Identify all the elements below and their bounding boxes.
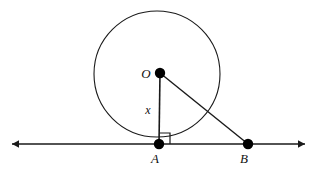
- point-label-o: O: [141, 66, 151, 81]
- point-a: [154, 139, 164, 149]
- point-o: [155, 68, 165, 78]
- point-label-a: A: [150, 151, 159, 166]
- geometry-diagram-canvas: O A B x: [0, 0, 316, 175]
- radius-length-label-x: x: [144, 103, 151, 117]
- point-label-b: B: [240, 151, 248, 166]
- point-b: [243, 139, 253, 149]
- geometry-figure: O A B x: [0, 0, 316, 175]
